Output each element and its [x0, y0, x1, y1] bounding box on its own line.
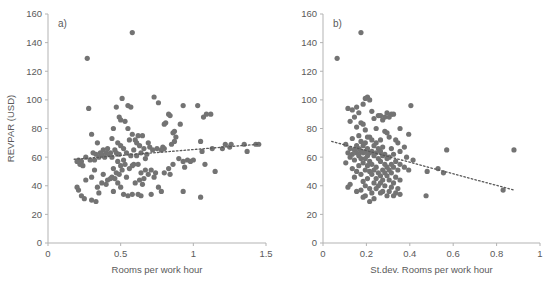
- scatter-point: [245, 149, 250, 154]
- scatter-point: [378, 159, 383, 164]
- scatter-point: [387, 134, 392, 139]
- scatter-point: [350, 107, 355, 112]
- scatter-point: [82, 196, 87, 201]
- scatter-point: [127, 137, 132, 142]
- y-axis-title: REVPAR (USD): [5, 95, 16, 162]
- scatter-point: [380, 117, 385, 122]
- scatter-point: [143, 167, 148, 172]
- scatter-point: [363, 183, 368, 188]
- scatter-point: [425, 169, 430, 174]
- y-tick-label: 80: [31, 123, 42, 134]
- scatter-point: [358, 30, 363, 35]
- y-tick-label: 20: [31, 209, 42, 220]
- scatter-point: [350, 136, 355, 141]
- scatter-point: [128, 104, 133, 109]
- scatter-point: [131, 147, 136, 152]
- scatter-point: [92, 167, 97, 172]
- scatter-point: [410, 157, 415, 162]
- y-tick-label: 100: [301, 94, 317, 105]
- scatter-point: [128, 153, 133, 158]
- x-tick-label: 0.2: [360, 248, 373, 259]
- scatter-point: [140, 133, 145, 138]
- scatter-point: [149, 192, 154, 197]
- scatter-point: [140, 182, 145, 187]
- figure-scatter-panels: 02040608010012014016000.511.5Rooms per w…: [0, 0, 549, 282]
- scatter-point: [348, 155, 353, 160]
- scatter-point: [345, 185, 350, 190]
- scatter-point: [378, 137, 383, 142]
- scatter-point: [83, 177, 88, 182]
- scatter-point: [109, 136, 114, 141]
- scatter-point: [395, 140, 400, 145]
- scatter-point: [352, 114, 357, 119]
- x-axis-title: St.dev. Rooms per work hour: [370, 264, 492, 275]
- scatter-point: [89, 175, 94, 180]
- scatter-point: [150, 147, 155, 152]
- scatter-point: [356, 133, 361, 138]
- y-tick-label: 160: [26, 8, 42, 19]
- scatter-point: [167, 172, 172, 177]
- scatter-point: [358, 172, 363, 177]
- scatter-point: [127, 166, 132, 171]
- panel-b: 02040608010012014016000.20.40.60.81St.de…: [278, 0, 549, 282]
- scatter-point: [112, 176, 117, 181]
- y-tick-label: 140: [301, 37, 317, 48]
- scatter-point: [121, 146, 126, 151]
- scatter-point: [361, 143, 366, 148]
- y-tick-label: 20: [306, 209, 317, 220]
- panel-tag: b): [333, 18, 342, 29]
- scatter-points-group: [335, 30, 517, 204]
- scatter-point: [397, 192, 402, 197]
- scatter-point: [354, 124, 359, 129]
- scatter-point: [361, 195, 366, 200]
- scatter-point: [371, 143, 376, 148]
- scatter-point: [201, 114, 206, 119]
- scatter-point: [146, 172, 151, 177]
- scatter-point: [137, 177, 142, 182]
- scatter-point: [356, 163, 361, 168]
- scatter-point: [389, 146, 394, 151]
- scatter-point: [181, 159, 186, 164]
- scatter-point: [111, 189, 116, 194]
- scatter-point: [444, 147, 449, 152]
- scatter-point: [117, 172, 122, 177]
- scatter-point: [181, 189, 186, 194]
- scatter-point: [406, 132, 411, 137]
- scatter-point: [124, 175, 129, 180]
- scatter-point: [95, 140, 100, 145]
- scatter-point: [138, 150, 143, 155]
- scatter-point: [109, 155, 114, 160]
- scatter-point: [382, 183, 387, 188]
- scatter-point: [213, 169, 218, 174]
- scatter-point: [402, 165, 407, 170]
- scatter-point: [170, 162, 175, 167]
- x-tick-label: 0.6: [447, 248, 460, 259]
- scatter-point: [156, 100, 161, 105]
- scatter-point: [138, 170, 143, 175]
- scatter-point: [371, 196, 376, 201]
- scatter-point: [369, 109, 374, 114]
- scatter-point: [181, 103, 186, 108]
- scatter-point: [149, 167, 154, 172]
- scatter-point: [96, 190, 101, 195]
- scatter-point: [354, 189, 359, 194]
- scatter-point: [80, 163, 85, 168]
- scatter-point: [125, 193, 130, 198]
- y-tick-label: 120: [301, 66, 317, 77]
- y-tick-label: 0: [37, 237, 42, 248]
- scatter-point: [367, 199, 372, 204]
- scatter-point: [76, 187, 81, 192]
- scatter-point: [130, 30, 135, 35]
- panel-b-canvas: 02040608010012014016000.20.40.60.81St.de…: [278, 0, 549, 282]
- scatter-point: [115, 180, 120, 185]
- scatter-point: [393, 175, 398, 180]
- scatter-point: [85, 56, 90, 61]
- panel-a-canvas: 02040608010012014016000.511.5Rooms per w…: [0, 0, 278, 282]
- scatter-point: [395, 167, 400, 172]
- scatter-point: [363, 127, 368, 132]
- scatter-point: [402, 145, 407, 150]
- scatter-point: [111, 166, 116, 171]
- scatter-point: [404, 155, 409, 160]
- y-tick-label: 60: [31, 152, 42, 163]
- x-tick-label: 0.8: [490, 248, 503, 259]
